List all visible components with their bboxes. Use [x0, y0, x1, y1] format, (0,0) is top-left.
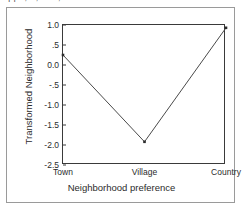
y-axis-title: Transformed Neighborhood [23, 22, 34, 152]
data-point-marker [143, 141, 146, 144]
y-axis-tick-label: .5 [52, 40, 59, 50]
x-axis-tick-label: Country [211, 167, 241, 177]
cropped-caption-remnant: || , , . , [0, 0, 245, 6]
plot-area: 1.0.50.0-.5-1.0-1.5-2.0-2.5TownVillageCo… [62, 24, 225, 164]
data-point-marker [62, 54, 65, 57]
y-axis-tick-mark [63, 65, 66, 66]
y-axis-tick-mark [63, 145, 66, 146]
y-axis-tick-mark [63, 45, 66, 46]
y-axis-tick-label: 1.0 [47, 20, 59, 30]
chart-figure: || , , . , Transformed Neighborhood 1.0.… [0, 0, 245, 209]
y-axis-tick-mark [63, 25, 66, 26]
x-axis-tick-label: Village [132, 167, 157, 177]
y-axis-tick-label: -.5 [49, 80, 59, 90]
y-axis-tick-label: 0.0 [47, 60, 59, 70]
x-axis-tick-label: Town [53, 167, 73, 177]
y-axis-tick-label: -2.0 [44, 140, 59, 150]
x-axis-title: Neighborhood preference [7, 182, 236, 193]
data-line [63, 28, 226, 142]
caption-remnant-text: || , , . , [8, 0, 64, 2]
y-axis-tick-mark [63, 85, 66, 86]
y-axis-tick-mark [63, 165, 66, 166]
plot-inner: 1.0.50.0-.5-1.0-1.5-2.0-2.5TownVillageCo… [63, 25, 224, 163]
y-axis-tick-mark [63, 105, 66, 106]
y-axis-tick-label: -1.5 [44, 120, 59, 130]
y-axis-tick-mark [63, 125, 66, 126]
data-point-marker [225, 27, 228, 30]
chart-outer-frame: Transformed Neighborhood 1.0.50.0-.5-1.0… [6, 7, 235, 203]
y-axis-tick-label: -1.0 [44, 100, 59, 110]
data-series-layer [63, 25, 226, 165]
